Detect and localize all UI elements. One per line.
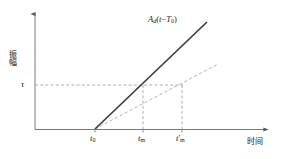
tick-label-tm-prime-subscript: m xyxy=(180,137,185,143)
y-axis-label: 振幅 xyxy=(7,50,15,66)
tau-tick-label: τ xyxy=(21,80,24,89)
x-axis-label: 时间 xyxy=(247,138,263,146)
amplitude-time-diagram: 振幅 时间 τ t0 tm t′m Ad(t−T0) xyxy=(0,0,283,159)
solid-ramp-line xyxy=(95,22,207,129)
tick-label-tm-subscript: m xyxy=(141,137,146,143)
dashed-ramp-line xyxy=(95,64,218,129)
curve-equation-label: Ad(t−T0) xyxy=(148,15,177,24)
tick-label-t0: t0 xyxy=(90,134,96,143)
tick-label-tm: tm xyxy=(138,134,145,143)
tick-label-t0-subscript: 0 xyxy=(93,137,96,143)
tick-label-tm-prime: t′m xyxy=(176,134,185,143)
curve-label-close-paren: ) xyxy=(174,14,177,24)
